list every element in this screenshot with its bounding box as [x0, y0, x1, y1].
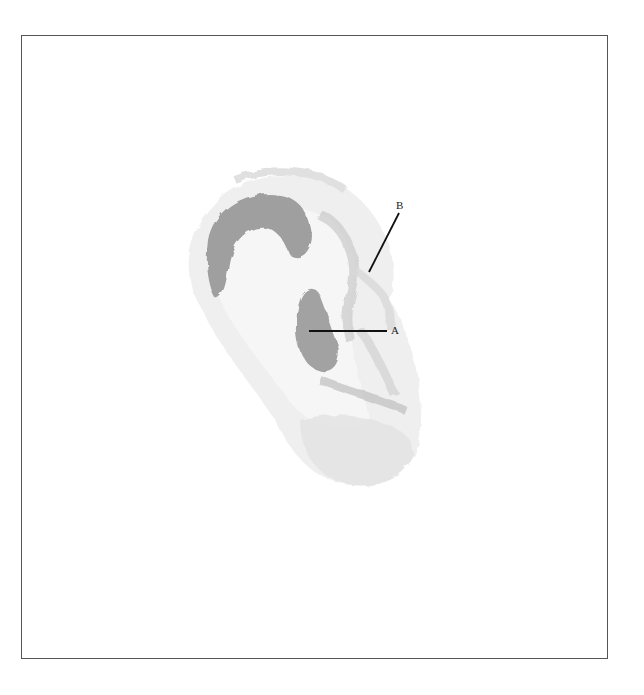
- label-b: B: [396, 199, 403, 211]
- ear-shape: [189, 171, 421, 485]
- label-a: A: [391, 324, 399, 336]
- ear-illustration: [0, 0, 644, 695]
